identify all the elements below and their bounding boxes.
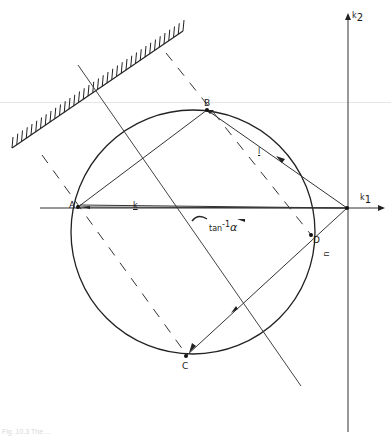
label-A: A (69, 201, 75, 210)
figure-caption: Fig. 10.3 The ... (2, 428, 51, 435)
label-B: B (204, 99, 210, 108)
diagram-canvas (0, 0, 391, 439)
k1-axis-label: k1 (360, 194, 371, 205)
ewald-circle (71, 110, 315, 354)
k2-axis (345, 13, 351, 432)
angle-arc (192, 216, 207, 221)
point-A (76, 205, 80, 209)
normal-line (78, 65, 301, 386)
label-vector-k: k (133, 202, 138, 210)
label-D: D (313, 236, 320, 245)
k2-axis-label: k2 (352, 12, 363, 23)
label-C: C (182, 362, 188, 371)
hatch-marks (12, 20, 184, 148)
dashed-line-upper (166, 53, 312, 236)
origin-point (345, 206, 349, 210)
label-vector-n: n (323, 251, 331, 256)
chord-A-B (78, 110, 207, 207)
point-C (184, 354, 188, 358)
vector-l (207, 110, 347, 208)
arrow-up-icon (345, 13, 351, 20)
point-B (205, 108, 209, 112)
angle-label: tan-1α (209, 221, 237, 233)
label-vector-l: l (258, 148, 260, 156)
arrow-right-icon (378, 205, 385, 211)
